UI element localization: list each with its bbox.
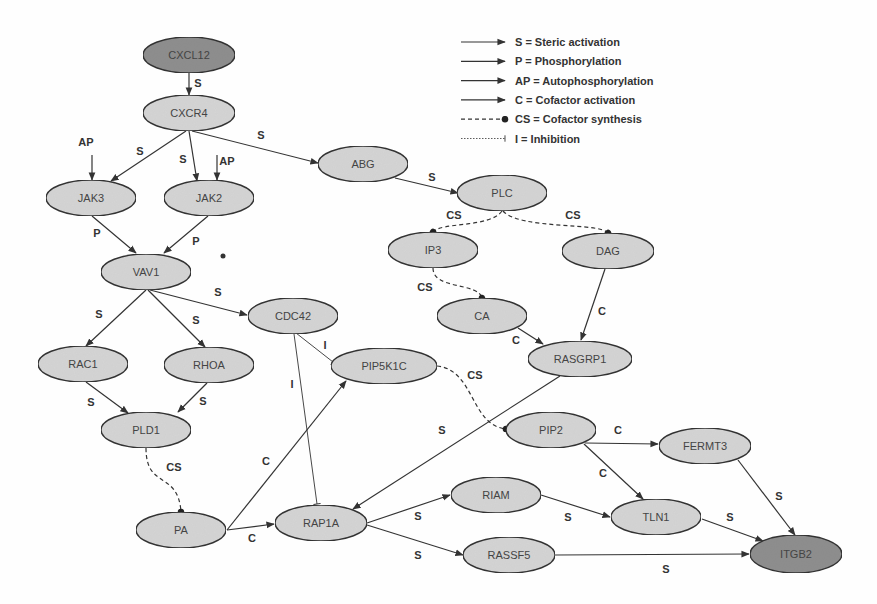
edge-label: CS [467,369,482,381]
node-rassf5[interactable]: RASSF5 [463,537,555,573]
stray-dot [221,254,226,259]
node-jak2[interactable]: JAK2 [164,180,254,216]
edge-line [555,554,749,555]
node-label: PIP5K1C [361,360,406,372]
edge-vav1-to-rac1: S [86,290,146,346]
node-ca[interactable]: CA [437,298,527,334]
legend-item-ap: AP = Autophosphorylation [461,75,654,87]
edge-line [503,211,608,233]
edge-line [541,495,610,517]
legend-text: AP = Autophosphorylation [515,75,654,87]
edge-vav1-to-cdc42: S [150,286,247,315]
edge-label: P [192,235,199,247]
node-rasgrp1[interactable]: RASGRP1 [528,341,632,377]
node-riam[interactable]: RIAM [451,477,541,513]
legend-item-i: I = Inhibition [461,133,580,145]
edge-line [111,131,186,181]
node-dag[interactable]: DAG [562,233,654,269]
edge-line [433,211,502,232]
node-vav1[interactable]: VAV1 [101,254,191,290]
edge-cdc42-to-rap1a: I [290,334,317,504]
node-label: RHOA [193,359,225,371]
nodes-layer: CXCL12CXCR4JAK3JAK2ABGPLCIP3DAGVAV1CDC42… [38,37,842,573]
node-fermt3[interactable]: FERMT3 [659,428,751,464]
edge-label: C [614,424,622,436]
node-pld1[interactable]: PLD1 [101,412,191,448]
edge-label: S [775,490,782,502]
node-rhoa[interactable]: RHOA [164,347,254,383]
edge-line [227,524,274,530]
edge-riam-to-tln1: S [541,495,610,523]
edge-label: S [662,563,669,575]
edge-jak2-to-vav1: P [164,216,208,253]
edge-ap1-to-jak3: AP [78,136,93,180]
edge-label: C [599,467,607,479]
edge-cxcl12-to-cxcr4: S [189,73,202,95]
node-label: IP3 [425,244,442,256]
node-label: PLC [491,187,512,199]
node-cdc42[interactable]: CDC42 [248,298,338,334]
node-label: RASSF5 [488,549,531,561]
node-pa[interactable]: PA [136,512,226,548]
node-jak3[interactable]: JAK3 [46,180,136,216]
edge-line [164,216,208,253]
edge-label: S [414,549,421,561]
edge-line [395,178,458,193]
edge-ca-to-rasgrp1: C [512,328,543,346]
edge-abg-to-plc: S [395,171,458,193]
legend: S = Steric activationP = Phosphorylation… [461,36,654,145]
legend-text: S = Steric activation [515,36,620,48]
legend-item-s: S = Steric activation [461,36,620,48]
edge-label: S [214,286,221,298]
node-label: PIP2 [539,424,563,436]
edge-label: S [257,129,264,141]
legend-text: CS = Cofactor synthesis [515,113,642,125]
edge-pld1-to-pa: CS [146,448,182,512]
node-rac1[interactable]: RAC1 [38,346,128,382]
node-label: PA [174,524,189,536]
node-itgb2[interactable]: ITGB2 [750,535,842,573]
legend-item-cs: CS = Cofactor synthesis [461,113,642,125]
edge-line [296,333,333,362]
edge-label: S [95,308,102,320]
edge-line [738,460,795,535]
node-label: CXCL12 [168,49,210,61]
edge-label: S [438,424,445,436]
edge-pip2-to-tln1: C [584,444,643,499]
node-pip2[interactable]: PIP2 [506,412,596,448]
legend-item-c: C = Cofactor activation [461,94,635,106]
node-cxcl12[interactable]: CXCL12 [143,37,235,73]
edge-rap1a-to-rassf5: S [367,525,463,561]
node-label: DAG [596,245,620,257]
edge-label: S [192,314,199,326]
edge-tln1-to-itgb2: S [702,511,763,541]
edge-line [294,334,317,504]
edge-label: S [87,396,94,408]
node-plc[interactable]: PLC [457,175,547,211]
edge-label: S [414,510,421,522]
node-abg[interactable]: ABG [318,146,408,182]
edge-label: CS [446,209,461,221]
edge-line [189,131,197,181]
node-label: RAP1A [303,517,340,529]
node-label: JAK3 [78,192,104,204]
node-pip5k1c[interactable]: PIP5K1C [331,348,437,384]
legend-item-p: P = Phosphorylation [461,55,622,67]
node-rap1a[interactable]: RAP1A [275,505,367,541]
node-ip3[interactable]: IP3 [388,232,478,268]
diagram-svg: SSSSAPAPPPSCSCSCSCCSSSIISSCSCCCSSSSCCSSS… [0,0,877,604]
edge-line [585,443,658,444]
node-label: FERMT3 [683,440,727,452]
edge-pa-to-rap1a: C [227,524,274,544]
edge-rassf5-to-itgb2: S [555,554,749,575]
edge-label: S [194,77,201,89]
edge-label: C [262,455,270,467]
legend-text: C = Cofactor activation [515,94,635,106]
edge-label: C [598,305,606,317]
edge-label: AP [219,155,234,167]
edge-line [367,495,450,523]
node-label: ABG [351,158,374,170]
node-label: JAK2 [196,192,222,204]
node-tln1[interactable]: TLN1 [611,499,701,535]
node-cxcr4[interactable]: CXCR4 [143,95,235,131]
